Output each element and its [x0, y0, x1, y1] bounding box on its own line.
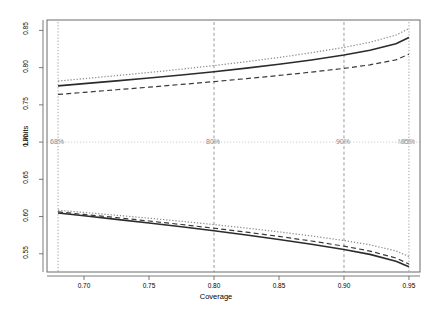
chart-canvas — [0, 0, 432, 310]
series-upper-dotted — [58, 29, 409, 81]
x-tick-label-1: 0.75 — [138, 282, 160, 289]
y-tick-label-1: 0.60 — [22, 204, 29, 226]
x-tick-label-4: 0.90 — [333, 282, 355, 289]
x-tick-label-0: 0.70 — [73, 282, 95, 289]
y-tick-label-2: 0.65 — [22, 167, 29, 189]
coverage-label-80pct: 80% — [206, 138, 220, 145]
y-tick-label-6: 0.85 — [22, 18, 29, 40]
x-tick-label-2: 0.80 — [203, 282, 225, 289]
series-lower-solid — [58, 213, 409, 267]
mle-label: MLE — [398, 138, 412, 145]
coverage-label-90pct: 90% — [336, 138, 350, 145]
y-tick-label-0: 0.55 — [22, 241, 29, 263]
series-lower-dashed — [58, 212, 409, 264]
plot-frame — [47, 20, 420, 272]
x-tick-label-3: 0.85 — [268, 282, 290, 289]
coverage-label-68pct: 68% — [50, 138, 64, 145]
x-tick-label-5: 0.95 — [398, 282, 420, 289]
y-tick-label-5: 0.80 — [22, 55, 29, 77]
series-upper-dashed — [58, 54, 409, 94]
series-upper-solid — [58, 37, 409, 85]
chart-figure: Limits Coverage 0.700.750.800.850.900.95… — [0, 0, 432, 310]
y-tick-label-3: 0.70 — [22, 130, 29, 152]
x-axis-title: Coverage — [0, 292, 432, 301]
y-tick-label-4: 0.75 — [22, 92, 29, 114]
